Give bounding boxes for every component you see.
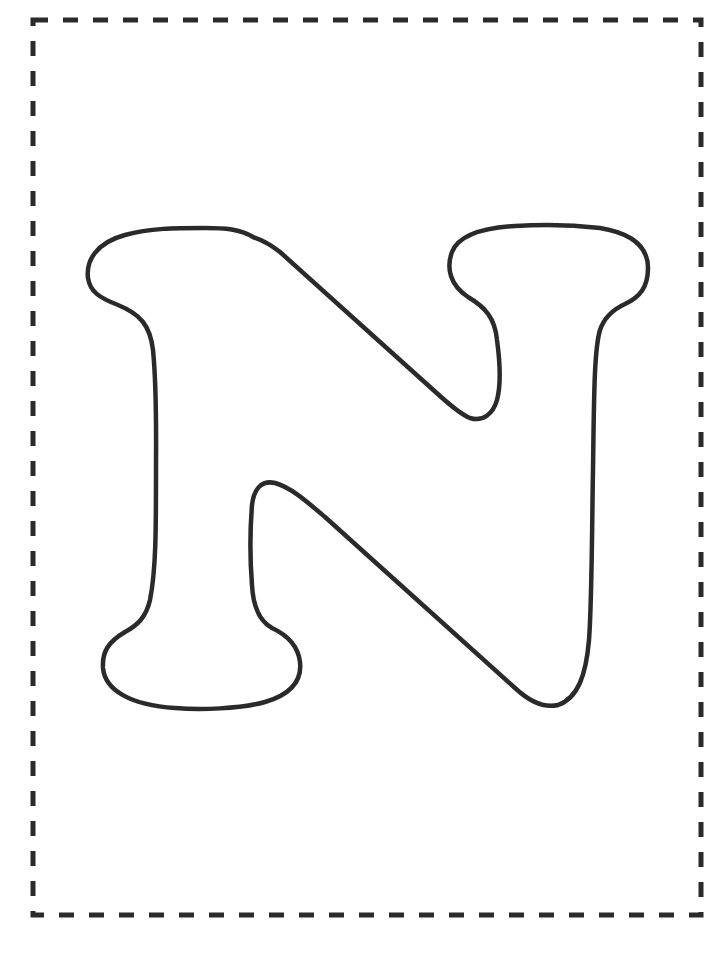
coloring-page [0,0,727,960]
